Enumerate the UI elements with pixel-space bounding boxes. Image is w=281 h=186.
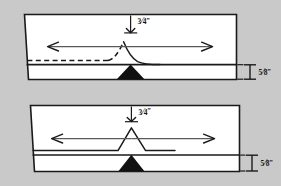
lower-thickness-label: 5⁄8” [261,158,273,168]
lower-thickness-dimension [246,155,258,171]
upper-joint-diagram: 3⁄4” 5⁄8” [25,15,271,80]
upper-thickness-dimension [244,65,256,79]
diagram-figure: 3⁄4” 5⁄8” [0,0,281,186]
lower-joint-diagram: 3⁄4” 5⁄8” [31,106,273,172]
weld-cross-section-svg: 3⁄4” 5⁄8” [0,0,281,186]
upper-thickness-label: 5⁄8” [259,67,271,77]
